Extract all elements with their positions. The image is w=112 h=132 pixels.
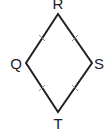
vertex-label-s: S — [94, 55, 104, 72]
rhombus-diagram: R Q S T — [0, 0, 112, 132]
vertex-label-r: R — [53, 0, 64, 12]
vertex-label-t: T — [53, 115, 62, 132]
rhombus-qrst — [26, 14, 92, 112]
vertex-label-q: Q — [10, 55, 22, 72]
